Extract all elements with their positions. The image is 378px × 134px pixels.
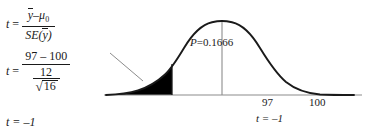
equation1-equals: =	[12, 17, 19, 32]
equation3-text: t = –1	[6, 115, 35, 130]
equation1-lhs: t	[6, 17, 9, 32]
mu-subscript: 0	[45, 15, 49, 24]
formula-block: t = y–μ0 SE(y) t = 97 – 100 12	[6, 2, 110, 132]
equation2-numerator: 97 – 100	[22, 50, 70, 64]
t-distribution-chart: P=0.1666 97 100 t = –1 t16	[104, 0, 378, 134]
inner-numerator: 12	[37, 66, 55, 79]
ybar-symbol: y	[28, 8, 33, 22]
se-suffix: )	[48, 28, 52, 42]
equation-t-definition: t = y–μ0 SE(y)	[6, 8, 55, 41]
equation1-numerator: y–μ0	[25, 8, 52, 26]
equation2-fraction: 97 – 100 12 √ 16	[22, 50, 70, 94]
equation1-fraction: y–μ0 SE(y)	[22, 8, 55, 41]
p-value-number: 0.1666	[203, 36, 233, 48]
equation2-denominator: 12 √ 16	[30, 65, 63, 94]
equation2-equals: =	[12, 64, 19, 79]
se-ybar-symbol: y	[42, 28, 47, 42]
square-root-expression: √ 16	[36, 80, 57, 94]
x-tick-label-97: 97	[262, 96, 273, 108]
p-label-leader-line	[110, 53, 143, 81]
t-statistic-annotation: t = –1	[256, 112, 283, 124]
p-symbol: P	[190, 36, 197, 48]
p-value-label: P=0.1666	[190, 36, 233, 48]
equation2-lhs: t	[6, 64, 9, 79]
radicand: 16	[43, 80, 57, 94]
equation-t-substituted: t = 97 – 100 12 √ 16	[6, 50, 70, 94]
inner-fraction: 12 √ 16	[33, 66, 60, 94]
figure-root: t = y–μ0 SE(y) t = 97 – 100 12	[0, 0, 378, 134]
x-tick-label-100: 100	[309, 96, 326, 108]
equation1-denominator: SE(y)	[22, 27, 55, 42]
se-prefix: SE(	[25, 28, 42, 42]
t-distribution-curve	[106, 21, 354, 95]
inner-denominator: √ 16	[33, 79, 60, 94]
distribution-svg	[104, 0, 378, 134]
equation-t-result: t = –1	[6, 115, 35, 130]
radical-icon: √	[36, 80, 43, 94]
